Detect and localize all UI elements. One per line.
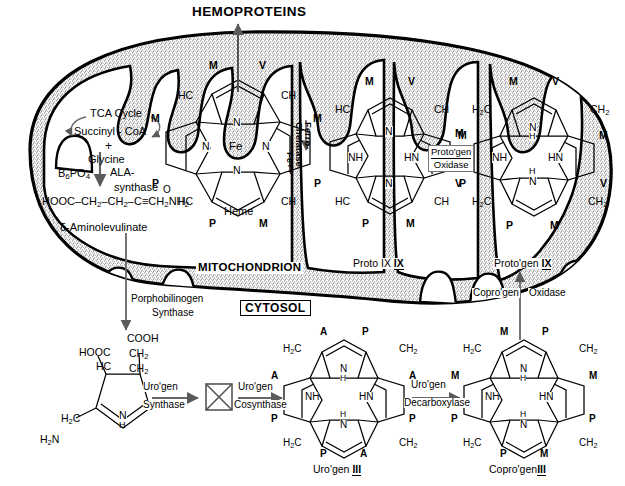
protogen-oxidase-line1: Proto'gen: [431, 146, 471, 159]
heme-meso-ch-tr: CH: [281, 90, 296, 101]
urogen-inner-hn: HN: [359, 392, 373, 402]
coprogen-side-m-left: M: [451, 371, 459, 381]
urogen-meso-ch2-br: CH2: [399, 438, 417, 449]
pbg-ring-h: H: [119, 421, 126, 430]
ala-oxygen-label: O: [163, 185, 171, 195]
succinyl-coa-label: Succinyl - CoA: [74, 126, 146, 137]
protogenix-side-v: V: [600, 178, 607, 189]
urogen-bottom-a: A: [360, 449, 367, 459]
coprogen-oxidase-label-2: Oxidase: [528, 288, 567, 298]
protogen-oxidase-label: Proto'gen Oxidase: [428, 145, 474, 172]
proto-ix-name: Proto IX IX: [352, 258, 405, 269]
urogen-inner-h-top: H: [340, 374, 346, 383]
urogen-meso-h2c-bl: H2C: [283, 438, 301, 449]
urogen-synthase-label-1: Uro'gen: [143, 382, 178, 392]
mitochondrion-label: MITOCHONDRION: [196, 262, 303, 274]
urogen-iii-skeleton: [284, 340, 404, 458]
heme-side-p-right: P: [314, 178, 321, 189]
coprogen-iii-name-text: Copro'gen: [489, 463, 537, 475]
urogen-iii-numeral: III: [352, 463, 361, 476]
coprogen-side-m-right: M: [589, 371, 597, 381]
crossed-box-icon: [206, 384, 232, 410]
heme-inner-n-bottom: N: [233, 165, 241, 176]
protoix-inner-n-top: N: [385, 126, 393, 137]
protoix-top-m: M: [365, 76, 374, 87]
urogen-iii-name-text: Uro'gen: [313, 463, 349, 475]
glycine-label: Glycine: [88, 154, 125, 165]
coprogen-meso-ch2-tr: CH2: [579, 344, 597, 355]
coprogen-side-p-left: P: [451, 414, 458, 424]
urogen-synthase-label-2: Synthase: [143, 400, 185, 410]
coprogen-iii-numeral: III: [537, 463, 546, 476]
proto-ix-name-text: Proto IX: [353, 257, 391, 269]
heme-name-label: Heme: [224, 206, 253, 217]
heme-top-m: M: [209, 60, 218, 71]
protoix-meso-ch-br: CH: [434, 196, 449, 207]
ala-synthase-label-1: ALA-: [110, 167, 134, 178]
coprogen-top-m: M: [500, 327, 508, 337]
protogenix-side-m-right: M: [599, 130, 608, 141]
urogen-iii-name: Uro'gen III: [313, 464, 361, 475]
urogen-decarboxylase-label-2: Decarboxylase: [404, 398, 470, 408]
protogenix-inner-h-top: H: [529, 132, 536, 141]
urogen-top-p: P: [362, 327, 369, 337]
heme-meso-hc-bl: HC: [178, 196, 193, 207]
coprogen-side-p-right: P: [589, 414, 596, 424]
ala-chain-formula: HOOC–CH2–CH2–C≡CH2NH2: [42, 196, 189, 209]
protogenix-meso-h2c-tl: H2C: [472, 104, 491, 116]
protoix-meso-ch-tr: CH: [434, 104, 449, 115]
protogen-ix-numeral: IX: [542, 257, 552, 270]
plus-sign: +: [105, 140, 112, 152]
porphobilinogen-synthase-label-1: Porphobilinogen: [131, 294, 203, 304]
urogen-top-a: A: [320, 327, 327, 337]
protogenix-inner-n-bottom: N: [529, 176, 537, 187]
coprogen-meso-h2c-tl: H2C: [463, 344, 481, 355]
pbg-ring-n: N: [119, 410, 127, 421]
heme-side-m-right: M: [313, 113, 322, 124]
urogen-side-p-right: P: [409, 414, 416, 424]
b6-phosphate-label: B6PO4: [58, 168, 90, 181]
protogenix-side-m-left: M: [458, 130, 467, 141]
urogen-cosynthase-label-2: Cosynthase: [234, 400, 287, 410]
urogen-inner-nh: NH: [305, 392, 319, 402]
protoix-top-v: V: [408, 76, 415, 87]
porphobilinogen-synthase-label-2: Synthase: [152, 308, 194, 318]
coprogen-inner-nh: NH: [485, 392, 499, 402]
protoix-bottom-p: P: [362, 218, 369, 229]
heme-inner-n-top: N: [233, 117, 241, 128]
protogenix-meso-h2c-bl: H2C: [472, 196, 491, 208]
protoix-inner-n-bottom: N: [385, 178, 393, 189]
protoix-bottom-m: M: [406, 218, 415, 229]
protogenix-top-m: M: [509, 76, 518, 87]
protogenix-inner-h-bottom: H: [529, 167, 536, 176]
po-letters: PO: [70, 167, 86, 179]
pbg-cooh: COOH: [127, 333, 159, 344]
coprogen-bottom-p: P: [500, 449, 507, 459]
coprogen-meso-ch2-br: CH2: [579, 438, 597, 449]
protogen-oxidase-line2: Oxidase: [431, 159, 471, 171]
urogen-side-a-left: A: [271, 371, 278, 381]
pbg-ch2-a: CH2: [129, 348, 148, 360]
protoix-inner-nh: NH: [348, 152, 363, 163]
pbg-hc: HC: [96, 361, 111, 372]
coprogen-inner-h-bottom: H: [520, 410, 526, 419]
coprogen-top-p: P: [542, 327, 549, 337]
coprogen-inner-n-bottom: N: [520, 420, 527, 430]
tca-cycle-label: TCA Cycle: [90, 108, 142, 119]
heme-top-v: V: [259, 60, 266, 71]
protogen-ix-name-text: Proto'gen: [494, 257, 539, 269]
protoix-meso-hc-bl: HC: [335, 196, 350, 207]
urogen-decarboxylase-label-1: Uro'gen: [411, 380, 446, 390]
urogen-inner-h-bottom: H: [340, 410, 346, 419]
protoix-meso-hc-tl: HC: [335, 104, 350, 115]
pbg-ch2-b: CH2: [129, 363, 148, 375]
heme-side-p-left: P: [152, 178, 159, 189]
protogenix-meso-ch2-br: CH2: [588, 196, 607, 208]
protogenix-inner-hn: HN: [548, 152, 563, 163]
coprogen-oxidase-label-1: Copro'gen: [472, 288, 520, 298]
heme-bottom-p: P: [209, 218, 216, 229]
protogen-ix-name: Proto'gen IX: [493, 258, 552, 269]
urogen-inner-n-bottom: N: [340, 420, 347, 430]
heme-meso-hc-tl: HC: [178, 90, 193, 101]
heme-side-m-left: M: [151, 113, 160, 124]
